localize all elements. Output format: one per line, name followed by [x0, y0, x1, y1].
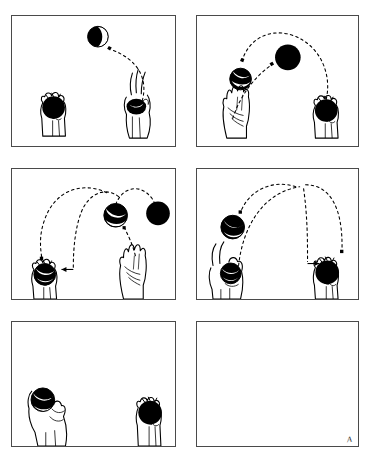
panel-1-artwork	[12, 16, 175, 146]
ball-in-flight-3	[146, 202, 170, 226]
trajectory-arrowhead-into-hand	[61, 267, 66, 272]
ball-in-flight-2	[221, 215, 245, 239]
trajectory-arc-middle	[73, 192, 118, 268]
panel-3-artwork	[12, 169, 175, 299]
trajectory-arc-short-right	[125, 228, 136, 256]
panel-2-artwork	[197, 16, 358, 146]
artist-signature: A	[347, 436, 353, 445]
trajectory-arc-right-to-left	[111, 49, 144, 100]
left-hand	[28, 388, 66, 446]
trajectory-arc-descending-left	[241, 184, 296, 212]
ball-in-left-hand	[34, 264, 56, 286]
trajectory-arrowhead-short	[123, 226, 126, 229]
ball-in-flight-2	[104, 203, 128, 227]
right-hand	[120, 245, 146, 299]
trajectory-arrowhead-left	[239, 210, 242, 213]
trajectory-arc-main	[243, 33, 328, 110]
panel-grid: A	[0, 0, 369, 461]
ball-in-flight-1	[88, 26, 109, 47]
ball-in-right-hand	[126, 99, 146, 115]
ball-in-left-hand	[31, 388, 55, 412]
ball-in-flight-1	[230, 68, 252, 90]
trajectory-arrowhead-far-right	[340, 250, 343, 253]
panel-5	[11, 321, 176, 447]
panel-5-artwork	[12, 322, 175, 446]
ball-in-left-hand	[220, 263, 241, 284]
left-hand	[209, 242, 242, 299]
ball-in-right-hand	[315, 99, 338, 122]
panel-1	[11, 15, 176, 147]
trajectory-arrowhead	[107, 46, 112, 51]
panel-6: A	[196, 321, 359, 447]
left-hand	[32, 259, 57, 299]
panel-6-artwork	[197, 322, 358, 446]
panel-3	[11, 168, 176, 300]
panel-4	[196, 168, 359, 300]
trajectory-arrowhead-left	[240, 58, 244, 62]
trajectory-arc-rising-center	[239, 187, 300, 266]
trajectory-arc-center-down	[304, 189, 308, 262]
left-hand	[223, 86, 249, 138]
trajectory-arc-left-descending	[41, 188, 107, 258]
ball-in-right-hand	[315, 261, 339, 285]
trajectory-arc-far-right	[306, 185, 342, 250]
panel-2	[196, 15, 359, 147]
illustration-sheet: A	[0, 0, 369, 461]
panel-4-artwork	[197, 169, 358, 299]
right-hand	[136, 397, 162, 446]
trajectory-arrowhead-rising	[270, 62, 275, 67]
right-hand	[313, 95, 338, 138]
ball-in-flight-2	[275, 45, 301, 71]
ball-in-left-hand	[42, 96, 65, 119]
right-hand	[124, 69, 150, 138]
left-hand	[41, 93, 66, 137]
ball-in-right-hand	[138, 401, 162, 425]
